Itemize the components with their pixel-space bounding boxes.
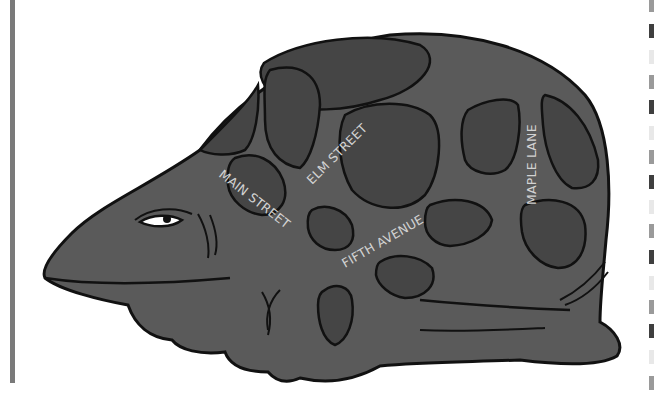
shell-plate: [340, 104, 439, 208]
turtle-illustration: MAIN STREET ELM STREET FIFTH AVENUE MAPL…: [0, 0, 654, 403]
street-label-maple: MAPLE LANE: [524, 124, 539, 205]
turtle-pupil: [163, 215, 171, 223]
shell-plate: [462, 100, 520, 174]
shell-plate: [200, 85, 258, 155]
illustration-canvas: MAIN STREET ELM STREET FIFTH AVENUE MAPL…: [0, 0, 654, 403]
